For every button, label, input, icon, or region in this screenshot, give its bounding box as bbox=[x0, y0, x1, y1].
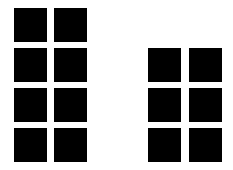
square bbox=[148, 48, 181, 82]
square bbox=[54, 128, 87, 162]
square bbox=[14, 48, 47, 82]
square bbox=[189, 88, 222, 122]
square bbox=[14, 8, 47, 42]
square bbox=[14, 128, 47, 162]
square bbox=[54, 48, 87, 82]
square bbox=[148, 128, 181, 162]
square bbox=[148, 88, 181, 122]
square bbox=[189, 128, 222, 162]
square bbox=[54, 8, 87, 42]
square bbox=[54, 88, 87, 122]
square bbox=[189, 48, 222, 82]
square bbox=[14, 88, 47, 122]
